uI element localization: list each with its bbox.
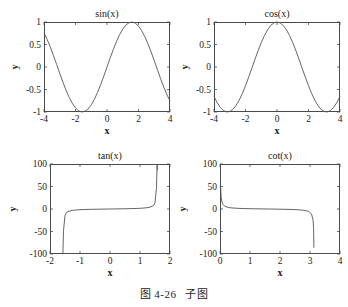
x-tick-label: 1 <box>138 256 143 267</box>
y-tick-label: 0 <box>206 62 211 72</box>
x-axis-label-tan: x <box>50 267 170 279</box>
y-tick-label: -50 <box>34 227 47 237</box>
y-tick-label: -50 <box>204 227 217 237</box>
y-tick-label: 100 <box>203 159 217 169</box>
subplot-title-tan: tan(x) <box>50 149 170 162</box>
x-tick-label: 2 <box>306 114 311 125</box>
x-tick-label: 3 <box>308 256 313 267</box>
plot-curve-cos <box>214 22 340 112</box>
y-tick-label: 100 <box>33 159 47 169</box>
x-axis-label-cos: x <box>214 125 340 137</box>
y-tick-label: 0 <box>42 204 47 214</box>
x-tick-label: 4 <box>168 114 173 125</box>
subplot-cot: cot(x) -100-50050100 01234 x y <box>220 164 340 254</box>
x-tick-label: -2 <box>46 256 54 267</box>
x-tick-label: 0 <box>108 256 113 267</box>
plot-curve-tan <box>50 164 170 254</box>
figure-subplots: sin(x) -1-0.500.51 -4-2024 x y cos(x) -1… <box>0 0 348 307</box>
y-tick-label: 1 <box>206 17 211 27</box>
y-tick-label: -0.5 <box>26 85 41 95</box>
plot-curve-cot <box>220 164 340 254</box>
y-tick-label: 0.5 <box>199 40 211 50</box>
y-tick-label: -100 <box>30 249 47 259</box>
x-tick-label: 0 <box>275 114 280 125</box>
y-axis-label-cot: y <box>177 207 189 212</box>
y-axis-label-cos: y <box>179 65 191 70</box>
x-tick-label: 4 <box>338 114 343 125</box>
y-tick-label: 0 <box>36 62 41 72</box>
plot-curve-sin <box>44 22 170 112</box>
x-tick-label: -4 <box>210 114 218 125</box>
x-tick-label: -1 <box>76 256 84 267</box>
figure-caption-label: 图 4-26 <box>140 288 177 300</box>
x-tick-label: 0 <box>105 114 110 125</box>
y-tick-label: -0.5 <box>196 85 211 95</box>
x-tick-label: 1 <box>248 256 253 267</box>
y-tick-label: -100 <box>200 249 217 259</box>
y-axis-label-tan: y <box>7 207 19 212</box>
subplot-sin: sin(x) -1-0.500.51 -4-2024 x y <box>44 22 170 112</box>
subplot-title-cos: cos(x) <box>214 7 340 20</box>
y-axis-label-sin: y <box>9 65 21 70</box>
figure-caption-text: 子图 <box>185 288 208 300</box>
subplot-tan: tan(x) -100-50050100 -2-1012 x y <box>50 164 170 254</box>
x-tick-label: -2 <box>242 114 250 125</box>
y-tick-label: 50 <box>38 182 48 192</box>
figure-caption: 图 4-26子图 <box>0 287 348 301</box>
subplot-title-sin: sin(x) <box>44 7 170 20</box>
x-axis-label-cot: x <box>220 267 340 279</box>
x-tick-label: 2 <box>278 256 283 267</box>
x-tick-label: -2 <box>72 114 80 125</box>
x-tick-label: 4 <box>338 256 343 267</box>
y-tick-label: 0.5 <box>29 40 41 50</box>
x-tick-label: 2 <box>136 114 141 125</box>
y-tick-label: 50 <box>208 182 218 192</box>
x-tick-label: 2 <box>168 256 173 267</box>
x-tick-label: -4 <box>40 114 48 125</box>
x-axis-label-sin: x <box>44 125 170 137</box>
subplot-title-cot: cot(x) <box>220 149 340 162</box>
y-tick-label: 1 <box>36 17 41 27</box>
x-tick-label: 0 <box>218 256 223 267</box>
subplot-cos: cos(x) -1-0.500.51 -4-2024 x y <box>214 22 340 112</box>
y-tick-label: 0 <box>212 204 217 214</box>
